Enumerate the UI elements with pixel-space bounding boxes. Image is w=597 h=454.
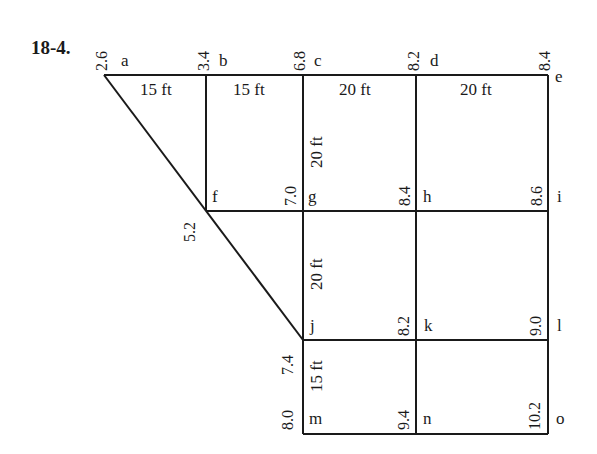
elevation-j: 7.4 — [280, 355, 296, 375]
elevation-g: 7.0 — [283, 186, 299, 206]
elevation-h: 8.4 — [397, 186, 413, 206]
dimension-ab: 15 ft — [140, 81, 172, 98]
elevation-e: 8.4 — [537, 51, 553, 71]
point-label-f: f — [212, 188, 218, 205]
point-label-o: o — [556, 410, 565, 427]
point-label-n: n — [423, 410, 432, 427]
point-label-j: j — [310, 317, 315, 334]
elevation-d: 8.2 — [406, 51, 422, 71]
dimension-gj: 20 ft — [308, 258, 325, 290]
point-label-e: e — [555, 68, 563, 85]
point-label-i: i — [557, 188, 562, 205]
elevation-m: 8.0 — [280, 410, 296, 430]
elevation-a: 2.6 — [94, 51, 110, 71]
edge-diagonal-a-j — [104, 75, 303, 340]
dimension-de: 20 ft — [460, 81, 492, 98]
point-label-k: k — [424, 317, 433, 334]
elevation-n: 9.4 — [396, 410, 412, 430]
point-label-c: c — [314, 52, 322, 69]
point-label-g: g — [308, 188, 317, 205]
point-label-m: m — [309, 410, 322, 427]
elevation-l: 9.0 — [528, 316, 544, 336]
elevation-f: 5.2 — [182, 222, 198, 242]
dimension-jm: 15 ft — [308, 360, 325, 392]
dimension-cg: 20 ft — [308, 136, 325, 168]
point-label-a: a — [121, 52, 129, 69]
elevation-k: 8.2 — [396, 316, 412, 336]
point-label-h: h — [423, 188, 432, 205]
elevation-i: 8.6 — [529, 186, 545, 206]
point-label-b: b — [219, 52, 228, 69]
dimension-cd: 20 ft — [339, 81, 371, 98]
dimension-bc: 15 ft — [233, 81, 265, 98]
point-label-d: d — [430, 52, 439, 69]
elevation-b: 3.4 — [196, 51, 212, 71]
elevation-c: 6.8 — [292, 51, 308, 71]
point-label-l: l — [557, 317, 562, 334]
elevation-o: 10.2 — [527, 402, 543, 430]
